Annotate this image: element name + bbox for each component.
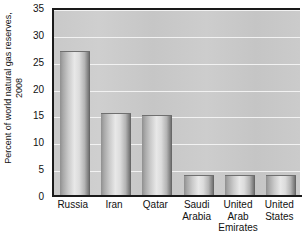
y-tick-label: 15 <box>33 110 44 121</box>
y-tick-label: 0 <box>38 191 44 202</box>
bar-chart: Percent of world natural gas reserves, 2… <box>0 0 308 239</box>
y-tick-label: 25 <box>33 56 44 67</box>
bar-top-edge <box>101 113 131 114</box>
bar-top-edge <box>60 51 90 52</box>
plot-area <box>52 8 300 196</box>
x-axis-line <box>52 195 302 197</box>
bar <box>225 175 255 196</box>
gridline <box>54 144 300 145</box>
x-tick-label: United States <box>259 199 300 222</box>
gridline <box>54 37 300 38</box>
bar <box>60 51 90 196</box>
bar-top-edge <box>142 115 172 116</box>
gridline <box>54 171 300 172</box>
bar <box>101 113 131 196</box>
x-tick-label: Saudi Arabia <box>176 199 217 222</box>
gridline <box>54 64 300 65</box>
bar <box>266 175 296 196</box>
y-axis-tick-labels: 05101520253035 <box>0 0 50 239</box>
y-tick-label: 20 <box>33 83 44 94</box>
gridline <box>54 10 300 11</box>
y-tick-label: 5 <box>38 164 44 175</box>
y-tick-label: 30 <box>33 29 44 40</box>
bar <box>184 175 214 196</box>
gridline <box>54 91 300 92</box>
x-tick-label: United Arab Emirates <box>217 199 258 234</box>
bar <box>142 115 172 196</box>
gridline <box>54 117 300 118</box>
y-tick-label: 10 <box>33 137 44 148</box>
bar-top-edge <box>225 175 255 176</box>
x-axis-tick-labels: RussiaIranQatarSaudi ArabiaUnited Arab E… <box>52 199 300 239</box>
bar-top-edge <box>184 175 214 176</box>
y-tick-label: 35 <box>33 3 44 14</box>
x-tick-label: Qatar <box>135 199 176 211</box>
x-tick-label: Iran <box>93 199 134 211</box>
bar-top-edge <box>266 175 296 176</box>
x-tick-label: Russia <box>52 199 93 211</box>
